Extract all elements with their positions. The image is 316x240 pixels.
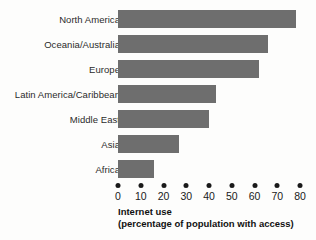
tick-dot-icon (116, 183, 121, 188)
x-tick-label: 80 (294, 190, 306, 203)
bar-oceania-australia (118, 35, 268, 53)
x-tick-label: 60 (249, 190, 261, 203)
tick-dot-icon (252, 183, 257, 188)
category-label: Middle East (70, 114, 120, 125)
x-tick-label: 40 (203, 190, 215, 203)
plot-area: North America Oceania/Australia Europe L… (0, 0, 316, 240)
x-tick-label: 30 (180, 190, 192, 203)
category-label: Oceania/Australia (44, 39, 120, 50)
x-tick-label: 0 (115, 190, 121, 203)
tick-dot-icon (138, 183, 143, 188)
x-axis-tick-labels: 0 10 20 30 40 50 60 70 80 (0, 190, 316, 203)
tick-dot-icon (184, 183, 189, 188)
tick-dot-icon (275, 183, 280, 188)
x-axis-ticks (0, 183, 316, 190)
bar-row: Latin America/Caribbean (0, 85, 316, 103)
bar-row: North America (0, 10, 316, 28)
bar-north-america (118, 10, 296, 28)
bar-middle-east (118, 110, 209, 128)
tick-dot-icon (161, 183, 166, 188)
category-label: Latin America/Caribbean (15, 89, 120, 100)
tick-dot-icon (207, 183, 212, 188)
tick-dot-icon (298, 183, 303, 188)
bar-europe (118, 60, 259, 78)
bar-latin-america-caribbean (118, 85, 216, 103)
x-tick-label: 50 (226, 190, 238, 203)
x-axis-title-line2: (percentage of population with access) (118, 218, 316, 230)
x-tick-label: 70 (271, 190, 283, 203)
bar-chart: North America Oceania/Australia Europe L… (0, 0, 316, 240)
bar-row: Middle East (0, 110, 316, 128)
category-label: Africa (95, 164, 120, 175)
category-label: North America (59, 14, 120, 25)
x-tick-label: 20 (158, 190, 170, 203)
x-axis-title-line1: Internet use (118, 206, 316, 218)
tick-dot-icon (229, 183, 234, 188)
bar-africa (118, 160, 154, 178)
bar-asia (118, 135, 179, 153)
bar-row: Asia (0, 135, 316, 153)
bar-row: Africa (0, 160, 316, 178)
category-label: Europe (89, 64, 120, 75)
bar-row: Oceania/Australia (0, 35, 316, 53)
x-tick-label: 10 (135, 190, 147, 203)
x-axis-title: Internet use (percentage of population w… (118, 206, 316, 230)
bar-row: Europe (0, 60, 316, 78)
